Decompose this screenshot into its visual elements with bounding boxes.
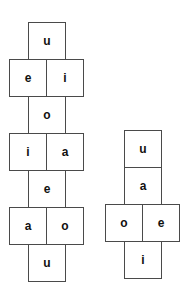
net-cell: e	[142, 204, 180, 242]
net-cell: i	[46, 59, 84, 97]
diagram-canvas: u e i o i a e a o u u a	[0, 0, 189, 294]
net-cell: u	[28, 22, 66, 60]
net-row: e i	[9, 59, 84, 97]
net-cell: u	[124, 130, 162, 168]
net-row: o e	[105, 204, 180, 242]
net-row: a o	[9, 207, 84, 245]
net-row: u	[28, 244, 66, 282]
net-cell: a	[124, 167, 162, 205]
cube-net-right: u a o e i	[105, 130, 181, 278]
net-row: i	[124, 241, 162, 279]
net-row: i a	[9, 133, 84, 171]
net-cell: u	[28, 244, 66, 282]
net-cell: i	[124, 241, 162, 279]
cube-net-left: u e i o i a e a o u	[9, 22, 85, 278]
net-cell: i	[9, 133, 47, 171]
net-cell: e	[28, 170, 66, 208]
net-row: e	[28, 170, 66, 208]
net-row: a	[124, 167, 162, 205]
net-cell: e	[9, 59, 47, 97]
net-row: u	[124, 130, 162, 168]
net-cell: o	[46, 207, 84, 245]
net-cell: o	[28, 96, 66, 134]
net-cell: a	[46, 133, 84, 171]
net-cell: a	[9, 207, 47, 245]
net-cell: o	[105, 204, 143, 242]
net-row: o	[28, 96, 66, 134]
net-row: u	[28, 22, 66, 60]
